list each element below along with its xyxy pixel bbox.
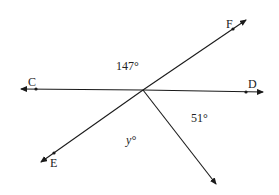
label-c: C [28,75,36,89]
angle-y: y° [125,133,136,147]
ray-down [143,90,216,184]
point-e [52,151,55,154]
angle-147: 147° [116,59,139,73]
label-f: F [226,17,233,31]
label-d: D [248,77,257,91]
label-e: E [50,156,57,170]
angle-diagram: C D F E 147° 51° y° [0,0,279,195]
angle-51: 51° [191,111,208,125]
line-ef-lower [41,90,143,162]
line-cd [21,89,143,90]
